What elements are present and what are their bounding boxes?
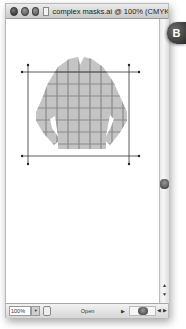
triangle-down-icon[interactable]: ▼ <box>161 291 168 298</box>
horizontal-scroll-thumb[interactable] <box>138 307 148 315</box>
vertical-scrollbar[interactable]: ▲ ▼ <box>159 19 169 303</box>
triangle-right-icon[interactable]: ▶ <box>162 307 168 315</box>
artboard-nav-icon[interactable] <box>43 306 51 316</box>
minimize-button[interactable] <box>21 7 29 16</box>
document-window: complex masks.ai @ 100% (CMYK/Prev... <box>5 3 169 318</box>
triangle-right-icon[interactable]: ▶ <box>121 308 125 314</box>
status-bar: 100% ▼ Open ▶ ◀ ▶ <box>6 303 168 318</box>
callout-badge: B <box>167 22 186 44</box>
horizontal-scrollbar[interactable] <box>129 306 156 316</box>
zoom-button[interactable] <box>32 7 40 16</box>
vertical-scroll-thumb[interactable] <box>160 179 169 189</box>
status-label[interactable]: Open <box>81 308 120 314</box>
artboard-canvas[interactable] <box>6 19 159 303</box>
triangle-up-icon[interactable]: ▲ <box>161 282 168 289</box>
shirt-artwork[interactable] <box>6 19 159 303</box>
title-bar[interactable]: complex masks.ai @ 100% (CMYK/Prev... <box>6 4 168 19</box>
zoom-level-field[interactable]: 100% <box>9 306 31 316</box>
chevron-down-icon[interactable]: ▼ <box>31 306 40 316</box>
close-button[interactable] <box>10 7 18 16</box>
window-title: complex masks.ai @ 100% (CMYK/Prev... <box>52 7 168 16</box>
document-proxy-icon[interactable] <box>43 7 49 16</box>
